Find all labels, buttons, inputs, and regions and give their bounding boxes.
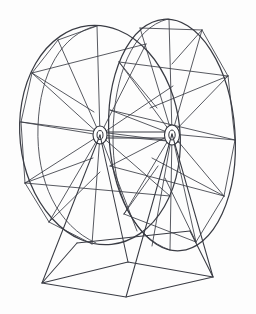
ferris-wheel-drawing: Ferris wheel line drawing Rear wheel out… [0,0,256,314]
rear-rim-label: Rear wheel outer rim [2,13,48,19]
front-rim-label: Front wheel outer rim [2,21,49,27]
figure-title: Ferris wheel line drawing [2,5,58,11]
spokes-label: Radial spokes [2,29,34,35]
base-label: Pedestal base frame [2,45,48,51]
bracing-label: Diagonal cross bracing [2,37,53,43]
